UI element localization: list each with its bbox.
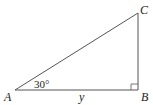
right-angle-marker	[131, 84, 138, 90]
vertex-label-b: B	[141, 90, 149, 104]
triangle-diagram: A B C 30° y	[0, 0, 153, 105]
vertex-label-a: A	[3, 90, 12, 104]
side-label-ab: y	[78, 90, 85, 104]
vertex-label-c: C	[140, 3, 149, 17]
angle-label-a: 30°	[34, 78, 49, 90]
